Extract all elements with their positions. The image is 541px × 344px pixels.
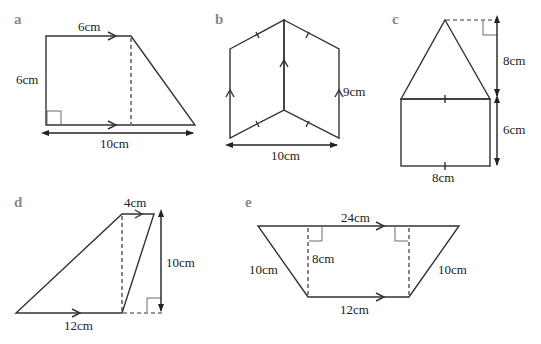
shape-e-label-bottom: 12cm — [340, 302, 369, 317]
shape-d-trapezium — [16, 214, 154, 313]
shape-e: e 24cm 8cm 10cm 10cm 12cm — [245, 194, 467, 317]
shape-a-trapezium — [46, 36, 195, 125]
shape-c-letter: c — [392, 11, 399, 27]
shape-e-label-right: 10cm — [438, 262, 467, 277]
geometry-figure: a 6cm 6cm 10cm b 9cm 10cm c — [0, 0, 541, 344]
shape-c-label-rectangle-height: 6cm — [503, 122, 525, 137]
right-angle-icon — [309, 227, 322, 241]
shape-e-label-top: 24cm — [341, 210, 370, 225]
shape-a: a 6cm 6cm 10cm — [14, 11, 195, 151]
shape-a-label-top: 6cm — [78, 19, 100, 34]
shape-e-trapezium — [258, 226, 459, 297]
shape-d-letter: d — [14, 194, 23, 210]
shape-c-rectangle — [401, 99, 490, 166]
shape-b-label-right: 9cm — [343, 84, 365, 99]
shape-a-letter: a — [14, 11, 22, 27]
right-angle-icon — [147, 298, 161, 312]
shape-e-label-height: 8cm — [312, 251, 334, 266]
shape-d-label-height: 10cm — [166, 255, 195, 270]
right-angle-icon — [395, 227, 408, 241]
shape-b: b 9cm 10cm — [215, 11, 365, 163]
shape-c: c 8cm 6cm 8cm — [392, 11, 525, 185]
shape-a-label-bottom: 10cm — [100, 136, 129, 151]
shape-b-label-bottom: 10cm — [271, 148, 300, 163]
right-angle-icon — [483, 21, 497, 35]
shape-d: d 4cm 10cm 12cm — [14, 194, 195, 333]
right-angle-icon — [47, 111, 61, 124]
shape-b-right-parallelogram — [284, 20, 339, 138]
shape-e-label-left: 10cm — [249, 262, 278, 277]
shape-b-left-parallelogram — [230, 20, 284, 138]
shape-c-label-triangle-height: 8cm — [503, 53, 525, 68]
shape-c-label-bottom: 8cm — [432, 170, 454, 185]
shape-a-label-left: 6cm — [16, 72, 38, 87]
shape-c-triangle — [401, 20, 490, 99]
shape-d-label-bottom: 12cm — [64, 318, 93, 333]
shape-b-letter: b — [215, 11, 223, 27]
shape-e-letter: e — [245, 194, 252, 210]
shape-d-label-top: 4cm — [124, 195, 146, 210]
